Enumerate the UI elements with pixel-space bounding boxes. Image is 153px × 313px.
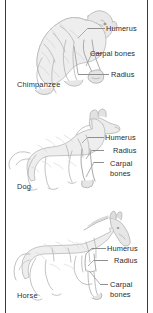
label-humerus: Humerus	[107, 244, 138, 253]
label-radius: Radius	[111, 70, 135, 79]
label-carpal-bones-line1: Carpal	[110, 159, 132, 169]
panel-horse: Humerus Radius Carpal bones Horse	[6, 208, 147, 313]
right-border-rule	[147, 0, 148, 313]
label-carpal-bones-line2: bones	[110, 290, 131, 300]
caption-chimpanzee: Chimpanzee	[17, 81, 61, 88]
homologous-limbs-figure: Humerus Carpal bones Radius Chimpanzee	[0, 0, 153, 313]
leader-connectors	[6, 105, 147, 208]
label-carpal-bones-line1: Carpal	[110, 280, 132, 290]
caption-dog: Dog	[17, 183, 31, 190]
label-radius: Radius	[113, 146, 137, 155]
label-carpal-bones-line2: bones	[110, 169, 131, 179]
label-radius: Radius	[114, 256, 138, 265]
label-humerus: Humerus	[105, 133, 136, 142]
caption-horse: Horse	[17, 292, 38, 299]
panel-dog: Humerus Radius Carpal bones Dog	[6, 105, 147, 208]
label-carpal-bones: Carpal bones	[90, 49, 135, 58]
panel-chimpanzee: Humerus Carpal bones Radius Chimpanzee	[6, 0, 147, 105]
label-humerus: Humerus	[106, 24, 137, 33]
